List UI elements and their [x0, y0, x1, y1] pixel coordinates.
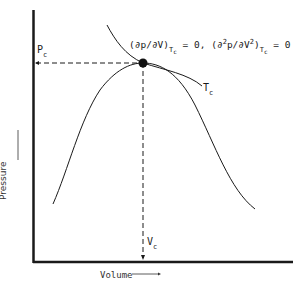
tc-label: Tc [203, 83, 213, 93]
critical-point-marker [139, 59, 148, 68]
pc-arrowhead-icon [35, 61, 39, 65]
x-axis-label: Volume [100, 270, 133, 280]
condition-second-mid: p/∂V [227, 39, 250, 50]
condition-sup-2: 2 [250, 38, 254, 46]
tc-label-sub: c [209, 89, 213, 97]
condition-sub-c2: c [264, 48, 268, 55]
condition-first-derivative: (∂p/∂V) [129, 39, 169, 50]
y-axis-label: Pressure [0, 162, 8, 200]
condition-second-open: (∂ [211, 39, 222, 50]
vc-label-sub: c [153, 243, 157, 251]
condition-eq-1: = 0, [177, 39, 211, 50]
condition-sub-c: c [173, 48, 177, 55]
vc-label: Vc [147, 237, 157, 247]
vc-arrowhead-icon [141, 255, 145, 260]
critical-condition-annotation: (∂p/∂V)Tc = 0, (∂2p/∂V2)Tc = 0 [129, 40, 290, 50]
condition-sup-1: 2 [223, 38, 227, 46]
critical-isotherm-curve [107, 25, 202, 86]
condition-second-close: ) [254, 39, 260, 50]
coexistence-dome-curve [53, 63, 255, 209]
x-axis-arrowhead-icon [158, 273, 161, 276]
condition-eq-2: = 0 [268, 39, 291, 50]
pc-label-sub: c [43, 51, 47, 59]
pc-label: Pc [37, 45, 47, 55]
